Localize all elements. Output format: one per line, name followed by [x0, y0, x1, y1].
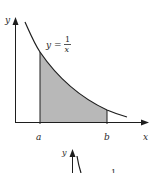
lower-bound-label: a	[36, 132, 41, 142]
y-axis-label: y	[4, 15, 11, 25]
function-label-lhs: y =	[45, 40, 62, 50]
partial-fragment-text: 1	[111, 168, 116, 173]
partial-y-axis-label: y	[61, 148, 67, 157]
partial-y-axis-arrow-icon	[70, 149, 76, 157]
function-numerator: 1	[65, 35, 70, 44]
x-axis-label: x	[143, 132, 148, 142]
area-under-curve-diagram: y x a b y = 1 x y 1	[0, 0, 151, 173]
x-axis-arrow-icon	[141, 120, 149, 126]
partial-curve	[77, 156, 81, 173]
upper-bound-label: b	[104, 132, 110, 142]
shaded-area	[40, 52, 107, 122]
y-axis-arrow-icon	[13, 17, 19, 25]
function-denominator: x	[65, 45, 70, 54]
